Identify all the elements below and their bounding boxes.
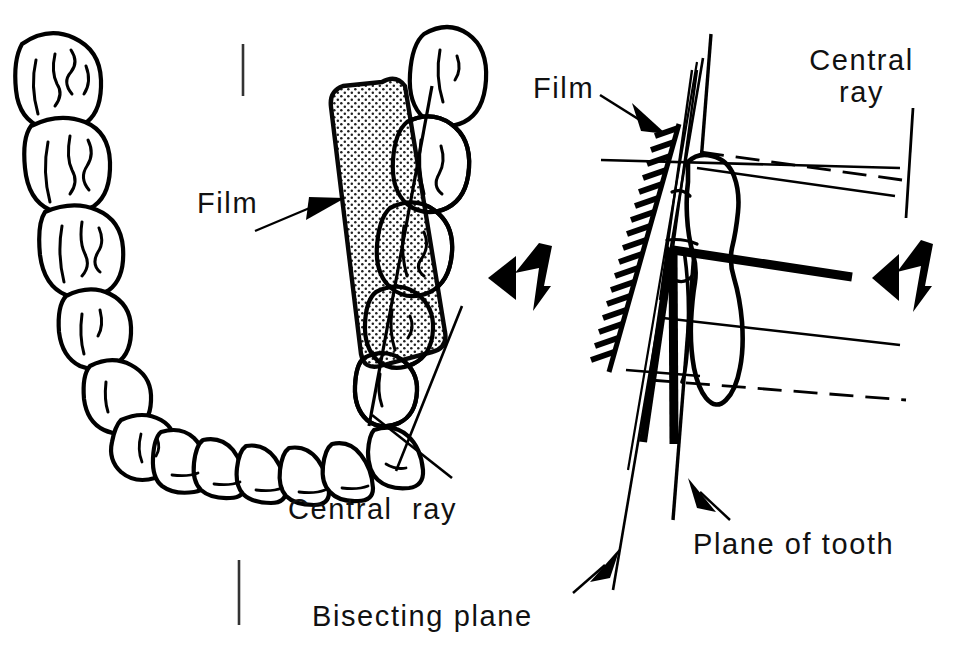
central-ray-tick-right [906,108,913,218]
label-film-left: Film [197,187,258,219]
label-central-ray-top: Central ray [779,44,944,109]
tooth-cross-section [687,155,743,405]
central-ray-beam [643,248,852,444]
left-panel [15,27,486,625]
plane-of-tooth-arrow [688,478,730,520]
label-plane-of-tooth: Plane of tooth [693,528,894,560]
label-central-ray-bottom: Central ray [288,493,457,525]
label-bisecting-plane: Bisecting plane [312,600,533,632]
film-arrow-right [600,95,666,134]
figure-root: Film Film Central ray Central ray Bisect… [0,0,976,649]
label-film-right: Film [533,72,594,104]
right-panel [573,34,913,593]
film-arrow-left [255,197,345,231]
beam-arrow-right [872,240,933,312]
root-canal [682,250,689,382]
beam-arrow-left [488,243,552,311]
